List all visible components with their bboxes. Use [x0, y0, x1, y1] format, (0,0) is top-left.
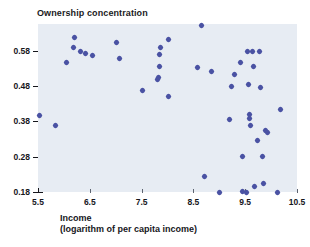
y-tick-mark	[33, 51, 38, 52]
x-axis-label: Income	[60, 213, 92, 223]
x-tick-label: 6.5	[75, 197, 105, 207]
x-tick-mark	[142, 189, 143, 193]
scatter-chart-figure: Ownership concentration 0.180.280.380.48…	[0, 0, 310, 247]
y-tick-mark	[33, 121, 38, 122]
y-tick-label: 0.18	[0, 187, 30, 197]
x-tick-label: 10.5	[282, 197, 310, 207]
y-tick-label: 0.38	[0, 116, 30, 126]
x-tick-mark	[90, 189, 91, 193]
axis-corner-horizontal	[38, 192, 43, 193]
x-tick-label: 5.5	[23, 197, 53, 207]
y-tick-mark	[33, 157, 38, 158]
x-tick-mark	[193, 189, 194, 193]
x-tick-label: 9.5	[230, 197, 260, 207]
x-axis-sublabel: (logarithm of per capita income)	[60, 224, 197, 234]
y-tick-label: 0.28	[0, 152, 30, 162]
chart-title: Ownership concentration	[37, 8, 148, 18]
y-tick-label: 0.48	[0, 81, 30, 91]
x-tick-mark	[297, 189, 298, 193]
y-tick-label: 0.58	[0, 46, 30, 56]
x-tick-label: 7.5	[127, 197, 157, 207]
y-tick-mark	[33, 86, 38, 87]
figure-top-margin	[0, 0, 310, 5]
x-tick-label: 8.5	[178, 197, 208, 207]
